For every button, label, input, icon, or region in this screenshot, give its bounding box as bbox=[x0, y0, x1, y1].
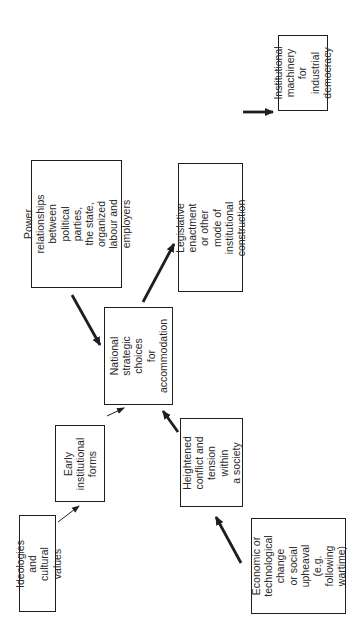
arrow-power-to-national bbox=[72, 295, 100, 345]
arrow-ideologies-to-early-forms bbox=[58, 506, 79, 522]
node-legislative-enactment: Legislative enactment or other mode of i… bbox=[178, 163, 243, 292]
node-heightened-conflict: Heightened conflict and tension within a… bbox=[180, 418, 243, 507]
node-national-strategic-choices: National strategic choices for accommoda… bbox=[104, 307, 173, 405]
node-ideologies: Ideologies and cultural values bbox=[19, 515, 56, 612]
node-early-institutional-forms: Early institutional forms bbox=[55, 425, 105, 502]
node-economic-label: Economic or technological change or soci… bbox=[250, 535, 348, 596]
node-power-relationships: Power relationships between political pa… bbox=[31, 160, 122, 288]
node-early-forms-label: Early institutional forms bbox=[62, 437, 99, 490]
node-machinery-label: Institutional machinery for industrial d… bbox=[272, 46, 333, 99]
node-legislative-label: Legislative enactment or other mode of i… bbox=[174, 199, 247, 256]
node-heightened-label: Heightened conflict and tension within a… bbox=[181, 436, 242, 490]
arrow-heightened-to-national bbox=[163, 411, 178, 432]
node-institutional-machinery: Institutional machinery for industrial d… bbox=[278, 35, 328, 111]
arrow-economic-to-heightened bbox=[216, 517, 241, 563]
node-ideologies-label: Ideologies and cultural values bbox=[13, 540, 62, 588]
arrow-national-to-legislative bbox=[143, 244, 174, 302]
node-economic-change: Economic or technological change or soci… bbox=[251, 518, 346, 614]
node-national-label: National strategic choices for accommoda… bbox=[108, 319, 169, 393]
node-power-label: Power relationships between political pa… bbox=[22, 195, 132, 254]
arrow-early-forms-to-national bbox=[107, 408, 124, 416]
